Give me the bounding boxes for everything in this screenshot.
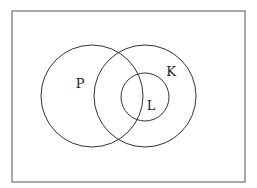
set-l-circle [121,73,169,121]
set-k-circle [94,45,196,147]
set-p-label: P [76,76,85,91]
set-p-circle [41,45,143,147]
set-l-label: L [147,98,156,113]
set-k-label: K [166,64,176,79]
venn-diagram: P K L [0,0,257,188]
universal-set-rectangle [12,11,245,182]
